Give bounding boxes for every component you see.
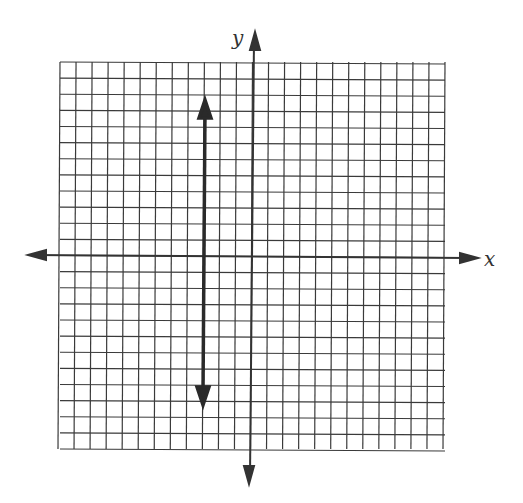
line-up-arrow-icon (199, 100, 211, 118)
x-axis-left-arrow-icon (28, 250, 46, 260)
x-axis-right-arrow-icon (460, 253, 478, 263)
vertical-line-x-neg3 (197, 100, 211, 405)
y-axis-up-arrow-icon (250, 32, 260, 50)
x-axis-label: x (484, 247, 495, 271)
line-down-arrow-icon (197, 387, 209, 405)
coordinate-plane (0, 0, 523, 503)
y-axis-label: y (232, 26, 243, 50)
y-axis-down-arrow-icon (244, 466, 254, 484)
